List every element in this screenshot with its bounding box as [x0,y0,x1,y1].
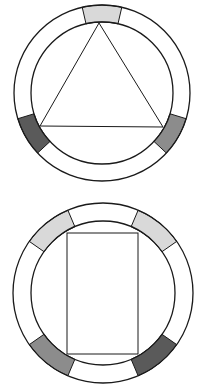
diagram-canvas [0,0,207,392]
ring-segment-dark [18,114,50,153]
inner-circle [31,221,175,365]
inscribed-triangle [40,23,163,127]
inner-circle [31,22,173,164]
ring-segment-light [82,5,122,24]
inscribed-rectangle [67,233,138,354]
triangle-ring-diagram [14,5,190,181]
rectangle-ring-diagram [13,203,193,383]
ring-segment-medium [29,334,75,376]
outer-circle [14,5,190,181]
ring-segment-light [29,210,75,252]
